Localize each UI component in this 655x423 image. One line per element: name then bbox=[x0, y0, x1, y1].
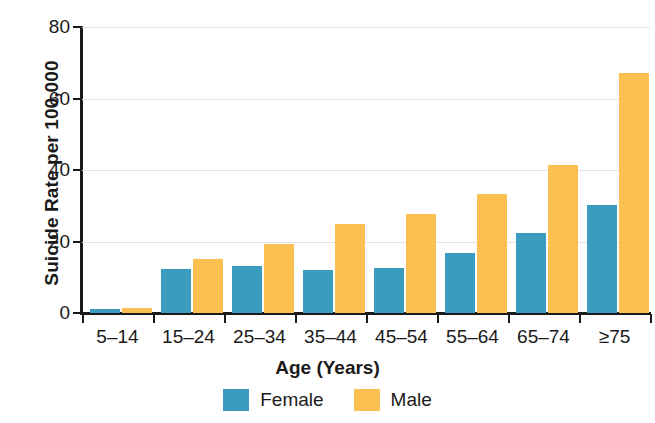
x-axis-tick-mark bbox=[366, 314, 368, 323]
legend-swatch-male bbox=[354, 389, 380, 411]
legend-swatch-female bbox=[223, 389, 249, 411]
x-axis-tick-label: 65–74 bbox=[517, 326, 570, 348]
bar-male-1 bbox=[193, 259, 223, 313]
x-axis-tick-mark bbox=[508, 314, 510, 323]
x-axis-tick-label: ≥75 bbox=[599, 326, 631, 348]
legend-label-female: Female bbox=[260, 389, 323, 411]
x-axis-tick-label: 55–64 bbox=[446, 326, 499, 348]
bar-female-0 bbox=[90, 309, 120, 313]
bar-male-0 bbox=[122, 308, 152, 313]
bar-group bbox=[82, 27, 153, 313]
bar-female-2 bbox=[232, 266, 262, 313]
bar-male-6 bbox=[548, 165, 578, 313]
bar-group bbox=[437, 27, 508, 313]
bar-female-7 bbox=[587, 205, 617, 313]
legend-item-female[interactable]: Female bbox=[223, 389, 323, 411]
bar-group bbox=[579, 27, 650, 313]
bar-group bbox=[153, 27, 224, 313]
y-axis-tick-mark bbox=[73, 98, 81, 100]
x-axis-tick-label: 15–24 bbox=[162, 326, 215, 348]
bar-male-3 bbox=[335, 224, 365, 313]
y-axis-tick-mark bbox=[73, 169, 81, 171]
bar-female-6 bbox=[516, 233, 546, 313]
chart-legend: FemaleMale bbox=[0, 389, 655, 411]
bar-group bbox=[508, 27, 579, 313]
x-axis-tick-mark bbox=[82, 314, 84, 323]
y-axis-tick-mark bbox=[73, 241, 81, 243]
plot-area bbox=[82, 27, 650, 313]
bar-male-7 bbox=[619, 73, 649, 313]
x-axis-tick-mark bbox=[153, 314, 155, 323]
x-axis-tick-mark bbox=[579, 314, 581, 323]
bar-female-5 bbox=[445, 253, 475, 313]
bar-male-4 bbox=[406, 214, 436, 313]
x-axis-tick-label: 35–44 bbox=[304, 326, 357, 348]
x-axis-tick-mark bbox=[224, 314, 226, 323]
y-axis-tick-mark bbox=[73, 312, 81, 314]
y-axis-tick-mark bbox=[73, 26, 81, 28]
legend-item-male[interactable]: Male bbox=[354, 389, 432, 411]
bar-group bbox=[366, 27, 437, 313]
y-axis-tick-label: 0 bbox=[10, 302, 70, 324]
bar-group bbox=[224, 27, 295, 313]
y-axis-tick-label: 20 bbox=[10, 231, 70, 253]
bar-female-4 bbox=[374, 268, 404, 313]
bar-male-5 bbox=[477, 194, 507, 313]
bar-female-1 bbox=[161, 269, 191, 313]
x-axis-tick-label: 5–14 bbox=[96, 326, 138, 348]
bar-female-3 bbox=[303, 270, 333, 313]
y-axis-tick-label: 60 bbox=[10, 88, 70, 110]
bar-male-2 bbox=[264, 244, 294, 313]
x-axis-title: Age (Years) bbox=[0, 357, 655, 379]
x-axis-tick-mark bbox=[437, 314, 439, 323]
bar-chart: Suicide Rate per 100,000 020406080 Age (… bbox=[0, 0, 655, 423]
y-axis-tick-label: 40 bbox=[10, 159, 70, 181]
x-axis-tick-mark bbox=[295, 314, 297, 323]
x-axis-tick-mark bbox=[650, 314, 652, 323]
legend-label-male: Male bbox=[391, 389, 432, 411]
bar-group bbox=[295, 27, 366, 313]
y-axis-tick-label: 80 bbox=[10, 16, 70, 38]
x-axis-tick-label: 25–34 bbox=[233, 326, 286, 348]
x-axis-tick-label: 45–54 bbox=[375, 326, 428, 348]
